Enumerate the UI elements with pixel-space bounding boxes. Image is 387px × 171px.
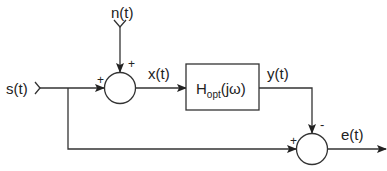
block-diagram: s(t) n(t) + + x(t) Hopt(jω) y(t) + - e(t… [0,0,387,171]
signal-label-n: n(t) [111,4,134,21]
sum2-sign-top: - [320,117,324,132]
line-y-to-sum2 [259,88,312,133]
signal-label-y: y(t) [267,65,289,82]
signal-label-e: e(t) [341,126,364,143]
signal-label-x: x(t) [148,65,170,82]
line-s-branch-to-sum2 [68,88,296,149]
summing-junction-1 [105,73,136,104]
sum2-sign-left: + [290,134,297,148]
summing-junction-2 [297,134,328,165]
input-chevron-icon [35,82,40,94]
sum1-sign-left: + [97,73,104,87]
signal-label-s: s(t) [6,80,28,97]
noise-chevron-icon [114,20,126,27]
sum1-sign-top: + [128,57,135,71]
